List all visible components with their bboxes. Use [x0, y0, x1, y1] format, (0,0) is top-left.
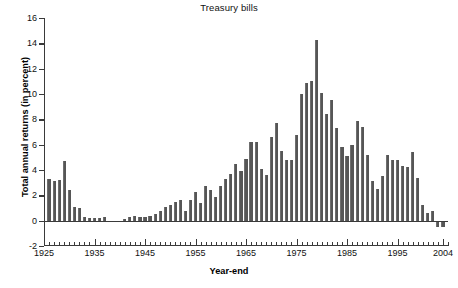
bar — [68, 190, 71, 220]
bar — [295, 135, 298, 221]
chart-title: Treasury bills — [0, 2, 458, 13]
bar — [320, 93, 323, 221]
bar — [361, 127, 364, 221]
bar — [305, 83, 308, 221]
x-tick-label: 1985 — [337, 249, 357, 258]
bar — [224, 179, 227, 221]
x-tick-label: 2004 — [433, 249, 453, 258]
bar — [431, 211, 434, 221]
y-axis-title: Total annual returns (in percent) — [20, 32, 30, 222]
bar — [376, 189, 379, 221]
treasury-bills-chart: Treasury bills Total annual returns (in … — [0, 0, 458, 288]
bar — [58, 180, 61, 221]
bar — [239, 171, 242, 220]
y-tick-label: 8 — [32, 115, 37, 124]
x-tick-label: 1925 — [34, 249, 54, 258]
bar — [340, 147, 343, 220]
bar — [396, 160, 399, 221]
x-tick-label: 1965 — [236, 249, 256, 258]
bar — [73, 207, 76, 221]
bar — [381, 176, 384, 220]
bar — [249, 142, 252, 221]
y-tick-label: 10 — [27, 90, 37, 99]
bar — [229, 174, 232, 221]
bar — [169, 205, 172, 220]
bar — [78, 208, 81, 221]
plot-area: -20246810121416 192519351945195519651975… — [44, 18, 448, 246]
bar — [315, 40, 318, 221]
bar — [330, 100, 333, 220]
bar — [199, 203, 202, 221]
bar — [255, 142, 258, 221]
bar — [290, 160, 293, 221]
bar — [265, 175, 268, 221]
bar — [356, 121, 359, 221]
x-tick-label: 1935 — [84, 249, 104, 258]
y-tick-label: 16 — [27, 14, 37, 23]
y-tick-label: 4 — [32, 166, 37, 175]
bar — [244, 159, 247, 221]
bar — [184, 211, 187, 221]
bar — [401, 166, 404, 220]
x-tick-label: 1995 — [387, 249, 407, 258]
bar — [345, 156, 348, 221]
bar — [219, 186, 222, 220]
bar — [310, 81, 313, 220]
bar — [63, 161, 66, 221]
bar — [325, 114, 328, 220]
x-axis-title: Year-end — [0, 266, 458, 276]
bar — [350, 145, 353, 221]
bar — [179, 200, 182, 220]
bar — [426, 213, 429, 221]
bar — [416, 178, 419, 221]
bar — [406, 167, 409, 220]
bar — [204, 186, 207, 220]
bar — [300, 94, 303, 221]
bar — [421, 205, 424, 220]
bar — [209, 190, 212, 220]
bar — [335, 128, 338, 220]
zero-baseline — [44, 221, 448, 222]
bar — [214, 197, 217, 221]
bar — [280, 151, 283, 221]
bar — [260, 169, 263, 221]
x-tick-minor — [448, 242, 449, 246]
bar — [411, 152, 414, 220]
bar — [275, 123, 278, 221]
x-tick-label: 1975 — [286, 249, 306, 258]
x-tick-label: 1955 — [185, 249, 205, 258]
y-tick — [39, 246, 44, 247]
y-tick-label: 2 — [32, 191, 37, 200]
y-tick-label: 14 — [27, 39, 37, 48]
bar — [270, 137, 273, 221]
bar — [189, 200, 192, 220]
bar — [164, 207, 167, 221]
bar — [174, 202, 177, 221]
bar — [391, 160, 394, 221]
y-tick-label: 12 — [27, 64, 37, 73]
bar — [285, 160, 288, 221]
bar — [366, 155, 369, 221]
bar — [234, 164, 237, 221]
x-tick-label: 1945 — [135, 249, 155, 258]
bar — [53, 181, 56, 220]
bar — [386, 155, 389, 221]
y-tick-label: 6 — [32, 140, 37, 149]
y-tick-label: 0 — [32, 216, 37, 225]
bar-series — [44, 18, 448, 246]
bar — [159, 211, 162, 221]
bar — [371, 181, 374, 220]
bar — [47, 179, 50, 221]
bar — [194, 192, 197, 221]
